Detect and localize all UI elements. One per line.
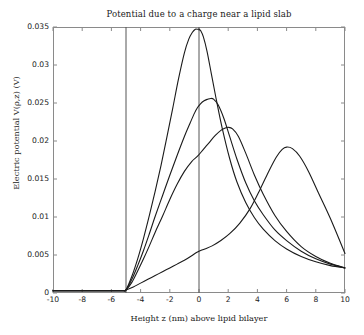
- plot-area: [53, 27, 345, 293]
- y-tick-label: 0.02: [32, 137, 49, 145]
- x-tick-label: 6: [272, 296, 302, 304]
- y-axis-tick-labels: 00.0050.010.0150.020.0250.030.035: [0, 27, 49, 293]
- chart-title: Potential due to a charge near a lipid s…: [53, 9, 345, 19]
- y-tick-label: 0.005: [27, 251, 49, 259]
- x-tick-label: -4: [126, 296, 156, 304]
- y-tick-label: 0.025: [27, 99, 49, 107]
- x-tick-label: 2: [213, 296, 243, 304]
- chart-figure: Potential due to a charge near a lipid s…: [0, 0, 364, 335]
- y-tick-label: 0.015: [27, 175, 49, 183]
- plot-svg: [53, 27, 345, 293]
- y-tick-label: 0.03: [32, 61, 49, 69]
- y-tick-label: 0.035: [27, 23, 49, 31]
- x-tick-label: 4: [242, 296, 272, 304]
- x-axis-tick-labels: -10-8-6-4-20246810: [53, 296, 345, 310]
- x-axis-label: Height z (nm) above lipid bilayer: [53, 313, 345, 323]
- x-tick-label: -6: [96, 296, 126, 304]
- x-tick-label: -10: [38, 296, 68, 304]
- x-tick-label: -2: [155, 296, 185, 304]
- x-tick-label: 8: [301, 296, 331, 304]
- x-tick-label: -8: [67, 296, 97, 304]
- y-tick-label: 0.01: [32, 213, 49, 221]
- x-tick-label: 0: [184, 296, 214, 304]
- x-tick-label: 10: [330, 296, 360, 304]
